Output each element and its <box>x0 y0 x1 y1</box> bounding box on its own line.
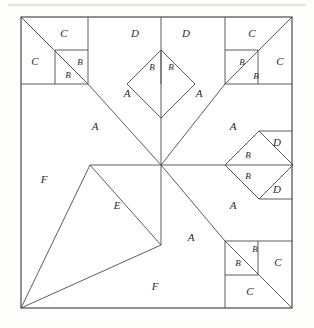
region-label: C <box>274 256 282 268</box>
region-label: A <box>187 231 195 243</box>
outer-square-border <box>21 17 292 308</box>
region-label: B <box>65 70 71 80</box>
region-label: C <box>246 285 254 297</box>
region-label: F <box>40 173 48 185</box>
region-label: B <box>245 150 251 160</box>
region-label: A <box>195 87 203 99</box>
region-label: B <box>253 71 259 81</box>
region-label: B <box>77 57 83 67</box>
region-label: D <box>130 27 139 39</box>
diagram-canvas: C C B B D D B B C C B B A A A A D B B D … <box>0 0 314 328</box>
region-label: D <box>272 183 281 195</box>
region-label: B <box>235 258 241 268</box>
region-label: F <box>151 280 159 292</box>
region-label: B <box>168 62 174 72</box>
region-label: C <box>276 55 284 67</box>
region-label: C <box>31 55 39 67</box>
region-label: A <box>91 120 99 132</box>
region-label: E <box>113 199 121 211</box>
region-label: B <box>149 62 155 72</box>
region-label: D <box>181 27 190 39</box>
region-label: A <box>123 87 131 99</box>
region-label: B <box>245 171 251 181</box>
region-label: D <box>272 136 281 148</box>
region-label: C <box>60 27 68 39</box>
region-label: C <box>248 27 256 39</box>
region-label: A <box>229 199 237 211</box>
region-label: B <box>252 244 258 254</box>
dissection-figure: C C B B D D B B C C B B A A A A D B B D … <box>0 0 314 328</box>
region-label: B <box>239 57 245 67</box>
region-label: A <box>229 120 237 132</box>
